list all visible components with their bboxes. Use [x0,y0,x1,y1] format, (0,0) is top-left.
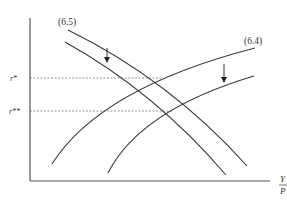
curve-6-4-shifted [108,76,254,173]
y-tick-r-star: r* [10,74,17,83]
diagram-canvas: (6.5) (6.4) r* r** Y P [0,0,287,202]
x-axis-label-numerator: Y [280,174,286,184]
curve-6-5-shifted [65,42,226,175]
curve-label-6-5: (6.5) [58,17,76,28]
curve-label-6-4: (6.4) [244,36,262,47]
curve-6-4-original [52,48,255,164]
x-axis-label-denominator: P [279,186,286,196]
y-tick-r-double-star: r** [9,107,20,116]
curve-6-5-original [68,30,247,166]
down-arrow-icon [221,64,227,83]
